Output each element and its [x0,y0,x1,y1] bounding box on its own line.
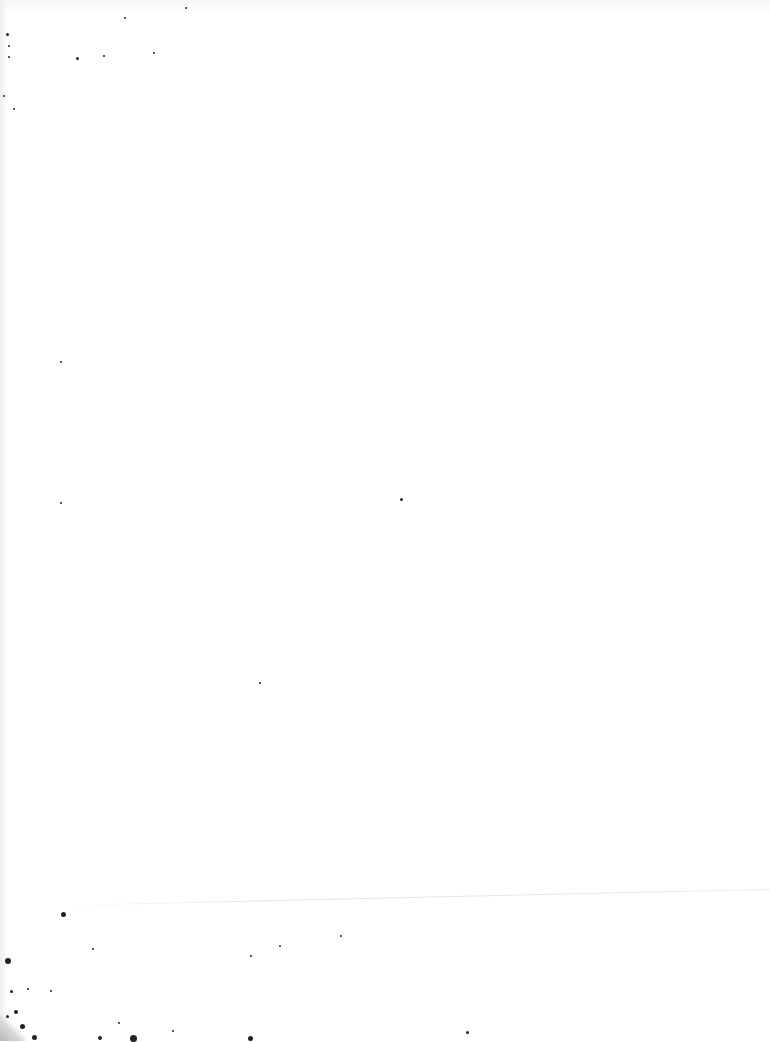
dust-speck [50,990,52,992]
dust-speck [98,1036,102,1040]
dust-speck [13,108,15,110]
dust-speck [32,1035,37,1040]
dust-speck [60,361,62,363]
dust-speck [8,45,10,47]
dust-speck [6,33,9,36]
dust-speck [5,958,11,964]
dust-speck [60,502,62,504]
dust-speck [8,56,10,58]
dust-speck [14,1010,18,1014]
dust-speck [118,1022,120,1024]
dust-speck [103,55,105,57]
dust-speck [124,17,126,19]
dust-speck [466,1031,469,1034]
dust-speck [250,955,252,957]
dust-speck [6,1015,9,1018]
dust-speck [3,95,5,97]
dust-speck [76,57,79,60]
dust-speck [279,945,281,947]
dust-speck [61,912,66,917]
dust-speck [185,7,187,9]
dust-speck [27,988,29,990]
dust-speck [248,1036,253,1041]
dust-speck [20,1024,25,1029]
dust-speck [340,935,342,937]
dust-speck [130,1035,137,1042]
dust-speck [92,948,94,950]
dust-speck [259,682,261,684]
dust-speck [10,990,13,993]
dust-speck [153,52,155,54]
dust-speck [172,1030,174,1032]
paper-crease-line [60,889,770,906]
dust-speck [400,498,403,501]
scan-edge-shadow [0,0,8,1041]
